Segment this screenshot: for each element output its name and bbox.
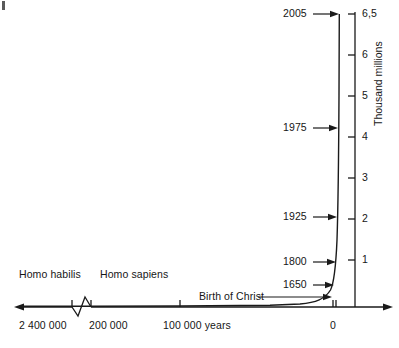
era-label-homo-sapiens: Homo sapiens: [100, 269, 168, 280]
arrow-1800: [313, 259, 336, 265]
x-tick-label-0: 0: [330, 320, 336, 331]
annotation-label-2005: 2005: [283, 8, 307, 19]
x-axis-right-arrow: [383, 303, 393, 310]
y-tick-label-6: 6: [362, 49, 368, 60]
y-axis-title: Thousand millions: [372, 0, 384, 126]
annotation-label-1975: 1975: [283, 122, 307, 133]
annotation-label-1925: 1925: [283, 211, 307, 222]
y-tick-label-2: 2: [362, 213, 368, 224]
x-tick-label-100000-years: 100 000 years: [163, 320, 231, 331]
arrow-2005: [313, 11, 339, 17]
annotation-label-1800: 1800: [283, 256, 307, 267]
arrow-1975: [313, 125, 338, 131]
annotation-label-1650: 1650: [283, 279, 307, 290]
population-growth-chart: 6,5 6 5 4 3 2 1 Thousand millions 2005 1…: [0, 0, 399, 348]
x-tick-label-2400000: 2 400 000: [19, 320, 67, 331]
y-tick-label-4: 4: [362, 131, 368, 142]
era-label-homo-habilis: Homo habilis: [19, 269, 81, 280]
y-tick-label-3: 3: [362, 172, 368, 183]
annotation-label-birth-of-christ: Birth of Christ: [199, 291, 264, 302]
y-tick-label-5: 5: [362, 90, 368, 101]
arrow-1650: [313, 282, 334, 288]
x-tick-label-200000: 200 000: [89, 320, 128, 331]
y-axis-ticks: [348, 14, 355, 260]
y-tick-label-1: 1: [362, 254, 368, 265]
arrow-1925: [313, 214, 337, 220]
